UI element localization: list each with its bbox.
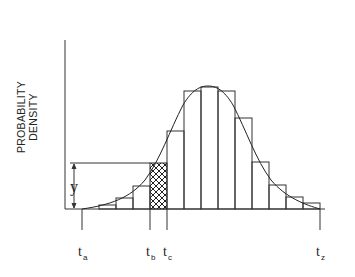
tick-label-tc: tc [163,244,172,262]
bar [269,185,286,209]
histogram-diagram [0,0,355,277]
tick-label-ta: ta [78,244,87,262]
tick-label-tz: tz [316,244,325,262]
arrow-down-icon [72,203,76,208]
tick-label-tb: tb [146,244,155,262]
bar [167,131,184,209]
y-marker-label: y [70,178,78,196]
bar [252,162,269,209]
bar [218,91,235,209]
bar [201,87,218,209]
shaded-bar [150,163,167,209]
bar [184,91,201,209]
bar [235,118,252,209]
arrow-up-icon [72,164,76,169]
